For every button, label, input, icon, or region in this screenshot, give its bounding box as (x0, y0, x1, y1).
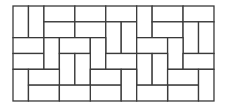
vertical-tile (13, 69, 28, 101)
horizontal-tile (168, 85, 199, 101)
vertical-tile (199, 22, 214, 54)
vertical-tile (137, 53, 152, 85)
horizontal-tile (106, 6, 137, 22)
horizontal-tile (59, 85, 90, 101)
vertical-tile (152, 53, 167, 85)
vertical-tile (199, 69, 214, 101)
horizontal-tile (137, 85, 168, 101)
vertical-tile (44, 38, 59, 70)
vertical-tile (183, 22, 198, 54)
horizontal-tile (168, 69, 199, 85)
horizontal-tile (75, 22, 106, 38)
horizontal-tile (183, 6, 214, 22)
horizontal-tile (152, 22, 183, 38)
horizontal-tile (13, 53, 44, 69)
horizontal-tile (13, 38, 44, 54)
horizontal-tile (59, 38, 90, 54)
tile-group (13, 6, 214, 101)
vertical-tile (90, 38, 105, 70)
horizontal-tile (28, 85, 59, 101)
horizontal-tile (90, 69, 121, 85)
horizontal-tile (106, 53, 137, 69)
vertical-tile (75, 53, 90, 85)
horizontal-tile (152, 6, 183, 22)
horizontal-tile (137, 38, 168, 54)
horizontal-tile (44, 22, 75, 38)
vertical-tile (168, 38, 183, 70)
vertical-tile (106, 22, 121, 54)
horizontal-tile (28, 69, 59, 85)
vertical-tile (59, 53, 74, 85)
vertical-tile (28, 6, 43, 38)
vertical-tile (137, 6, 152, 38)
tiling-pattern-diagram (0, 0, 225, 110)
vertical-tile (13, 6, 28, 38)
vertical-tile (121, 22, 136, 54)
horizontal-tile (75, 6, 106, 22)
vertical-tile (121, 69, 136, 101)
horizontal-tile (44, 6, 75, 22)
horizontal-tile (90, 85, 121, 101)
horizontal-tile (183, 53, 214, 69)
